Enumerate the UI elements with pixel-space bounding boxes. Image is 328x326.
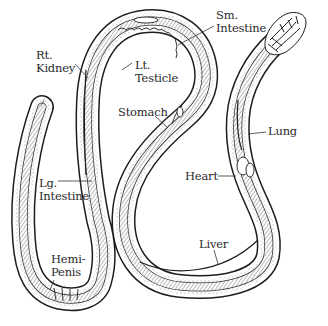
label-heart: Heart [185,170,218,183]
label-stomach: Stomach [118,106,168,119]
label-lg-intestine: Lg. Intestine [39,177,89,203]
label-lung: Lung [268,125,297,138]
leader-lt-testicle [122,63,132,70]
leader-liver [214,250,218,264]
label-lt-testicle: Lt. Testicle [135,59,178,85]
label-sm-intestine: Sm. Intestine [216,9,266,35]
snake-head [265,12,306,54]
label-hemi-penis: Hemi- Penis [51,253,85,279]
leader-lung [248,132,266,134]
label-liver: Liver [199,238,228,251]
label-rt-kidney: Rt. Kidney [36,49,75,75]
